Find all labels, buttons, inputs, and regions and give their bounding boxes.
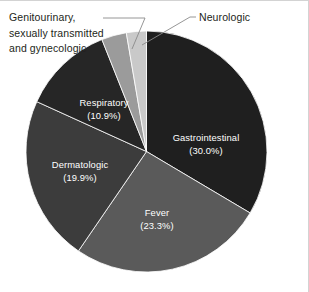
callout-label-genitourinary: Genitourinary, sexually transmitted and … [9,10,104,57]
pie-slice-group [26,31,267,272]
pie-chart-figure: Genitourinary, sexually transmitted and … [0,0,309,292]
callout-label-neurologic: Neurologic [199,10,250,26]
